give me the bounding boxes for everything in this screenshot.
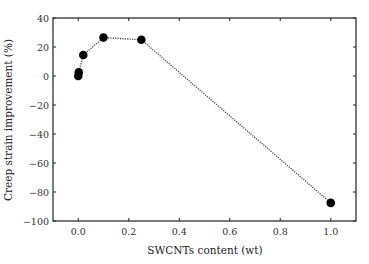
y-tick-label: −100 bbox=[23, 216, 49, 227]
x-tick-label: 0.4 bbox=[172, 226, 187, 237]
data-point bbox=[74, 68, 83, 77]
data-point bbox=[79, 51, 88, 60]
y-axis-label: Creep strain improvement (%) bbox=[2, 39, 14, 201]
y-tick-label: −80 bbox=[29, 187, 49, 198]
y-tick-label: 20 bbox=[37, 42, 49, 53]
plot-frame bbox=[53, 18, 356, 221]
y-tick-label: 40 bbox=[37, 13, 49, 24]
y-tick-label: 0 bbox=[43, 71, 49, 82]
y-axis-ticks: 40200−20−40−60−80−100 bbox=[23, 13, 356, 227]
data-point bbox=[137, 35, 146, 44]
data-series bbox=[74, 33, 335, 207]
y-tick-label: −60 bbox=[29, 158, 49, 169]
x-axis-label: SWCNTs content (wt) bbox=[147, 244, 262, 256]
series-line bbox=[78, 38, 331, 203]
x-tick-label: 1.0 bbox=[323, 226, 338, 237]
x-tick-label: 0.8 bbox=[273, 226, 288, 237]
x-axis-ticks: 0.00.20.40.60.81.0 bbox=[71, 18, 339, 237]
data-point bbox=[326, 199, 335, 208]
creep-strain-chart: 0.00.20.40.60.81.0 40200−20−40−60−80−100… bbox=[0, 0, 369, 264]
x-tick-label: 0.0 bbox=[71, 226, 86, 237]
data-point bbox=[99, 33, 108, 42]
x-tick-label: 0.6 bbox=[222, 226, 237, 237]
y-tick-label: −40 bbox=[29, 129, 49, 140]
plot-border bbox=[53, 18, 356, 221]
x-tick-label: 0.2 bbox=[121, 226, 136, 237]
y-tick-label: −20 bbox=[29, 100, 49, 111]
